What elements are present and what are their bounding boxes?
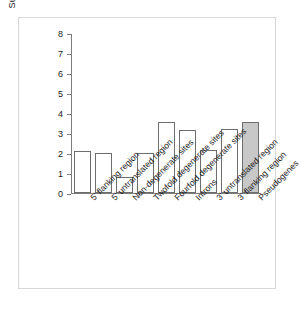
y-axis-tick: 7 [67, 54, 71, 55]
x-axis-label: 5' flanking region [89, 196, 95, 202]
y-axis-tick: 5 [67, 94, 71, 95]
y-axis-tick-label: 1 [58, 169, 63, 179]
bar-slot [219, 34, 240, 193]
x-axis-label: Pseudogenes [257, 196, 263, 202]
y-axis-tick-label: 6 [58, 69, 63, 79]
y-axis-tick: 4 [67, 114, 71, 115]
y-axis-tick: 1 [67, 174, 71, 175]
y-axis-tick-label: 3 [58, 129, 63, 139]
y-axis-tick-label: 0 [58, 189, 63, 199]
x-axis-label: 5' untranslated region [110, 196, 116, 202]
x-axis-label: 3' flanking region [236, 196, 242, 202]
x-axis-label: Introns [194, 196, 200, 202]
bar-slot [93, 34, 114, 193]
y-axis-tick: 6 [67, 74, 71, 75]
y-axis-tick-label: 2 [58, 149, 63, 159]
y-axis-title-line-1: Substitutions per nucleotide [7, 0, 19, 8]
y-axis-tick: 0 [67, 194, 71, 195]
x-axis-label: Twofold degenerate sites [152, 196, 158, 202]
bar-slot [72, 34, 93, 193]
x-axis-label: 3' untranslated region [215, 196, 221, 202]
y-axis-title: Substitutions per nucleotide per 109 yea… [5, 0, 31, 32]
x-axis-labels: 5' flanking region5' untranslated region… [72, 196, 261, 286]
y-axis-tick: 8 [67, 34, 71, 35]
y-axis-tick-label: 5 [58, 89, 63, 99]
y-axis-tick-label: 7 [58, 49, 63, 59]
x-axis-label: Non-degenerate sites [131, 196, 137, 202]
y-axis-tick-label: 8 [58, 29, 63, 39]
x-axis-label: Fourfold degenerate sites [173, 196, 179, 202]
figure-frame: Substitutions per nucleotide per 109 yea… [18, 17, 276, 289]
y-axis-tick: 2 [67, 154, 71, 155]
y-axis-tick-label: 4 [58, 109, 63, 119]
y-axis-tick: 3 [67, 134, 71, 135]
bar[interactable] [74, 151, 92, 193]
